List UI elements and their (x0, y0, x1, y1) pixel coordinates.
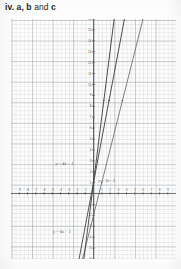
x-tick-label: 3 (117, 188, 119, 192)
x-tick-label: -7 (34, 188, 37, 192)
y-tick-label: -4 (89, 235, 92, 239)
equation-labels-layer: y = 4x + 1y = 3x - 2y = 6x + 1 (52, 161, 115, 234)
caption-var-c: c (51, 2, 56, 12)
x-tick-label: -5 (51, 188, 54, 192)
x-tick-label: 2 (109, 188, 111, 192)
y-tick-label: -2 (89, 213, 92, 217)
y-tick-label: 7 (90, 115, 92, 119)
x-tick-label: 6 (142, 188, 144, 192)
x-tick-label: -6 (43, 188, 46, 192)
data-point (93, 181, 95, 183)
x-tick-label: -3 (67, 188, 70, 192)
data-line-b (83, 19, 144, 259)
y-tick-label: -1 (89, 203, 92, 207)
y-tick-label: 9 (90, 93, 92, 97)
y-tick-label: 8 (90, 104, 92, 108)
y-tick-label: 15 (88, 28, 92, 32)
y-tick-label: 1 (90, 181, 92, 185)
figure-caption: iv. a, b and c (5, 1, 56, 13)
y-tick-label: 11 (88, 72, 91, 76)
data-line-a (79, 19, 124, 259)
y-tick-label: 14 (88, 39, 92, 43)
x-tick-label: 8 (159, 188, 161, 192)
axis-layer (11, 19, 176, 259)
y-tick-label: 5 (90, 137, 92, 141)
x-tick-label: 1 (101, 188, 103, 192)
graph-paper-panel: -9-8-7-6-5-4-3-2-11234567891615141312111… (11, 19, 176, 259)
y-tick-label: 12 (88, 61, 92, 65)
y-tick-label: 3 (90, 159, 92, 163)
y-tick-label: 2 (90, 170, 92, 174)
y-tick-label: 16 (88, 19, 92, 21)
data-point (103, 100, 105, 102)
x-tick-label: -4 (59, 188, 62, 192)
y-tick-label: 6 (90, 126, 92, 130)
equation-label-c: y = 6x + 1 (52, 229, 71, 234)
x-tick-label: -8 (26, 188, 29, 192)
y-tick-label: -3 (89, 224, 92, 228)
x-tick-label: -2 (76, 188, 79, 192)
y-tick-label: 13 (88, 50, 92, 54)
equation-label-a: y = 4x + 1 (55, 161, 74, 166)
y-tick-label: -6 (89, 257, 92, 259)
caption-comma: , (21, 2, 23, 12)
data-line-c (84, 19, 114, 259)
y-tick-label: 4 (90, 148, 92, 152)
caption-var-b: b (26, 2, 31, 12)
x-tick-label: 5 (134, 188, 136, 192)
caption-conjunction: and (34, 2, 48, 12)
x-tick-label: 9 (167, 188, 169, 192)
x-tick-label: -1 (84, 188, 87, 192)
y-tick-label: 10 (88, 83, 92, 87)
data-point (108, 100, 110, 102)
caption-number: iv. (5, 2, 14, 12)
x-tick-label: -9 (18, 188, 21, 192)
data-lines-layer (79, 19, 143, 259)
graph-plot: -9-8-7-6-5-4-3-2-11234567891615141312111… (11, 19, 176, 259)
y-tick-label: -5 (89, 246, 92, 250)
x-tick-label: 7 (150, 188, 152, 192)
equation-label-b: y = 3x - 2 (97, 178, 114, 183)
data-point (122, 100, 124, 102)
x-tick-label: 4 (126, 188, 128, 192)
